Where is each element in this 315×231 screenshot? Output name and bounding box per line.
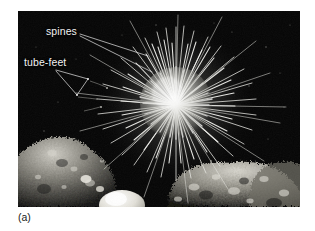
annotation-label-tube-feet: tube-feet: [24, 57, 66, 68]
film-grain: [18, 11, 300, 207]
annotation-label-spines: spines: [46, 26, 77, 37]
figure-container: spines tube-feet (a): [0, 0, 315, 231]
photo-scene: [18, 11, 300, 207]
figure-caption: (a): [18, 211, 31, 223]
sea-urchin-photograph: [18, 11, 300, 207]
